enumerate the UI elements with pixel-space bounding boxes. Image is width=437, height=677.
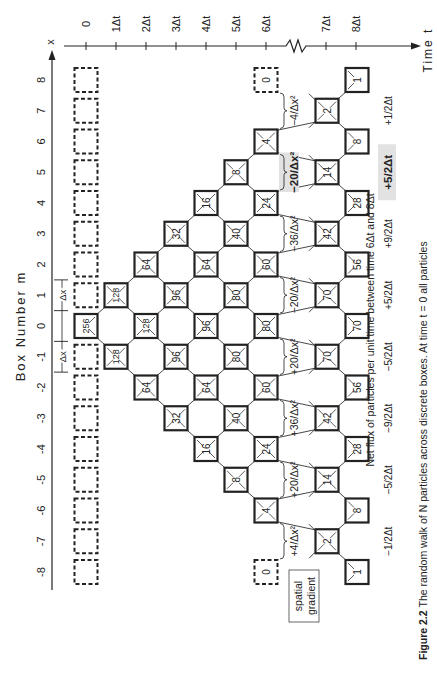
particle-count: 60 xyxy=(261,259,272,271)
particle-box: 60 xyxy=(255,253,278,277)
empty-box xyxy=(75,529,98,553)
figure-caption: Figure 2.2 The random walk of N particle… xyxy=(417,241,429,660)
particle-box: 96 xyxy=(165,283,188,307)
particle-box: 24 xyxy=(255,191,278,215)
particle-count: 60 xyxy=(261,382,272,394)
spatial-gradient-value: −20/Δx² xyxy=(288,277,300,314)
particle-count: 96 xyxy=(201,320,212,332)
particle-box: 64 xyxy=(195,376,218,400)
empty-box xyxy=(75,68,98,92)
spatial-gradient-value: +4/Δx² xyxy=(288,525,300,556)
net-flux-value: +1/2Δt xyxy=(383,96,394,125)
time-tick-label: 6Δt xyxy=(260,16,272,33)
empty-box xyxy=(75,345,98,369)
particle-count: 28 xyxy=(352,443,363,455)
particle-count: 4 xyxy=(261,138,272,144)
particle-box: 80 xyxy=(225,283,248,307)
spatial-gradient-value: +20/Δx² xyxy=(288,338,300,375)
particle-count: 40 xyxy=(231,228,242,240)
particle-box: 32 xyxy=(165,222,188,246)
particle-count: 40 xyxy=(231,412,242,424)
particle-count: 4 xyxy=(261,507,272,513)
particle-count: 0 xyxy=(261,77,272,83)
spatial-gradient-label-line1: spatial xyxy=(292,581,304,611)
particle-box: 4 xyxy=(255,130,278,154)
particle-count: 8 xyxy=(231,477,242,483)
particle-count: 24 xyxy=(261,197,272,209)
particle-count: 64 xyxy=(141,259,152,271)
box-number-tick: 7 xyxy=(35,108,47,114)
particle-box: 24 xyxy=(255,437,278,461)
box-number-tick: 1 xyxy=(35,292,47,298)
particle-count: 56 xyxy=(352,382,363,394)
particle-count: 96 xyxy=(171,289,182,301)
box-number-tick: 4 xyxy=(35,200,47,206)
gradient-brace xyxy=(280,216,287,252)
dx-label-left: Δx xyxy=(57,351,68,362)
particle-count: 64 xyxy=(141,382,152,394)
gradient-brace xyxy=(280,339,287,375)
particle-count: 70 xyxy=(352,320,363,332)
box-number-tick: 6 xyxy=(35,138,47,144)
particle-count: 64 xyxy=(201,259,212,271)
box-number-tick: -2 xyxy=(35,383,47,393)
particle-box: 96 xyxy=(195,314,218,338)
spatial-gradient-value: +36/Δx² xyxy=(288,400,300,437)
empty-box xyxy=(75,437,98,461)
net-flux-value: −5/2Δt xyxy=(383,465,394,494)
particle-box: 80 xyxy=(225,345,248,369)
particle-box: 16 xyxy=(195,437,218,461)
particle-box: 40 xyxy=(225,222,248,246)
box-axis-label: Box Number m xyxy=(13,271,28,382)
particle-count: 80 xyxy=(231,351,242,363)
box-number-tick: -1 xyxy=(35,352,47,362)
time-tick-label: 5Δt xyxy=(230,16,242,33)
particle-count: 64 xyxy=(201,382,212,394)
particle-box: 8 xyxy=(346,499,369,523)
particle-box: 4 xyxy=(255,499,278,523)
particle-count: 16 xyxy=(201,197,212,209)
time-tick-label: 1Δt xyxy=(110,16,122,33)
particle-box: 14 xyxy=(316,160,339,184)
particle-box: 64 xyxy=(195,253,218,277)
particle-box: 16 xyxy=(195,191,218,215)
time-axis-arrow-icon xyxy=(411,43,421,50)
particle-box: 8 xyxy=(225,160,248,184)
particle-box: 2 xyxy=(316,99,339,123)
particle-box: 96 xyxy=(165,345,188,369)
time-tick-label: 0 xyxy=(80,21,92,27)
particle-box: 32 xyxy=(165,406,188,430)
particle-count: 128 xyxy=(111,288,121,303)
particle-count: 28 xyxy=(352,197,363,209)
particle-box: 2 xyxy=(316,529,339,553)
time-tick-label: 7Δt xyxy=(320,16,332,33)
particle-count: 0 xyxy=(261,569,272,575)
empty-box xyxy=(75,99,98,123)
particle-count: 128 xyxy=(111,349,121,364)
particle-count: 1 xyxy=(352,569,363,575)
particle-count: 2 xyxy=(322,108,333,114)
particle-count: 56 xyxy=(352,259,363,271)
time-axis-label: Time t xyxy=(421,28,435,73)
empty-box xyxy=(75,376,98,400)
box-axis-arrow-icon xyxy=(49,50,56,60)
box-number-tick: 0 xyxy=(35,323,47,329)
particle-box: 42 xyxy=(316,222,339,246)
time-tick-label: 8Δt xyxy=(350,16,362,33)
spatial-gradient-value: −20/Δx² xyxy=(288,151,300,192)
net-flux-value: −9/2Δt xyxy=(383,403,394,432)
particle-count: 8 xyxy=(231,169,242,175)
spatial-gradient-value: +20/Δx² xyxy=(288,461,300,498)
empty-box xyxy=(75,253,98,277)
net-flux-value: +9/2Δt xyxy=(383,219,394,248)
particle-count: 24 xyxy=(261,443,272,455)
figure-number: Figure 2.2 xyxy=(417,607,429,660)
box-number-tick: 2 xyxy=(35,261,47,267)
particle-box: 8 xyxy=(225,468,248,492)
empty-box xyxy=(75,406,98,430)
particle-count: 128 xyxy=(141,318,151,333)
particle-count: 256 xyxy=(81,318,91,333)
particle-count: 96 xyxy=(171,351,182,363)
particle-box: 60 xyxy=(255,376,278,400)
particle-count: 1 xyxy=(352,77,363,83)
